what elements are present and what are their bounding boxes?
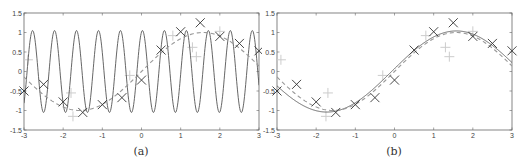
x-tick-label: -1 — [352, 132, 358, 139]
chart-b-svg: -3-2-10123-1.5-1-0.500.511.5 — [0, 0, 523, 145]
y-tick-label: 1 — [271, 29, 275, 36]
x-tick-label: 3 — [510, 132, 514, 139]
caption-a: (a) — [121, 145, 161, 158]
y-tick-label: -1.5 — [263, 127, 275, 134]
x-tick-label: 2 — [471, 132, 475, 139]
x-tick-label: 0 — [393, 132, 397, 139]
y-tick-label: 0 — [271, 68, 275, 75]
y-tick-label: 0.5 — [265, 49, 275, 56]
caption-b: (b) — [374, 145, 414, 158]
y-tick-label: -1 — [269, 107, 275, 114]
x-tick-label: -2 — [313, 132, 319, 139]
y-tick-label: 1.5 — [265, 10, 275, 17]
y-tick-label: -0.5 — [263, 88, 275, 95]
x-tick-label: 1 — [432, 132, 436, 139]
